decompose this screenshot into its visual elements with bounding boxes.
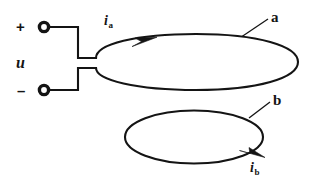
current-b-label: ib: [250, 161, 259, 175]
terminal-positive[interactable]: [39, 22, 48, 31]
terminal-negative[interactable]: [39, 85, 48, 94]
coil-b-loop: [125, 111, 263, 164]
circuit-diagram-svg: [0, 0, 311, 185]
current-b-subscript: b: [254, 167, 259, 177]
coil-a-label: a: [271, 10, 279, 25]
current-a-subscript: a: [108, 20, 113, 30]
leader-line-a: [242, 19, 268, 37]
polarity-plus-label: +: [16, 19, 25, 34]
leader-line-b: [249, 102, 270, 118]
coil-a-loop: [96, 34, 298, 90]
polarity-minus-label: –: [17, 83, 25, 98]
circuit-figure: + u – ia a b ib: [0, 0, 311, 185]
lead-wire-top: [49, 27, 96, 58]
lead-wire-bottom: [49, 68, 96, 90]
voltage-label: u: [16, 55, 25, 71]
coil-b-label: b: [273, 93, 281, 108]
current-a-label: ia: [104, 14, 112, 28]
current-a-arrowhead: [132, 37, 157, 46]
